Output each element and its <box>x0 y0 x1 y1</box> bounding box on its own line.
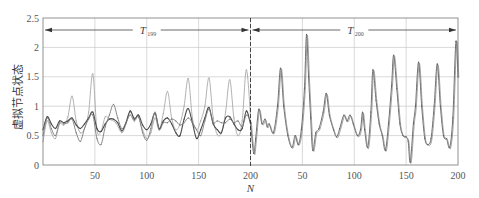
data-point <box>308 76 309 77</box>
data-point <box>167 117 168 118</box>
data-point <box>84 123 85 124</box>
data-point <box>134 119 135 120</box>
x-tick-label: 50 <box>297 170 307 181</box>
data-point <box>225 122 226 123</box>
data-point <box>117 122 118 123</box>
data-point <box>204 106 205 107</box>
y-tick-label: 2 <box>34 42 39 53</box>
data-point <box>175 120 176 121</box>
data-point <box>96 138 97 139</box>
data-point <box>179 124 180 125</box>
x-tick-label: 150 <box>191 170 206 181</box>
data-point <box>150 123 151 124</box>
data-point <box>315 132 316 133</box>
data-point <box>291 147 292 148</box>
data-point <box>188 108 189 109</box>
data-point <box>306 34 307 35</box>
y-tick-label: 1.5 <box>27 71 40 82</box>
data-point <box>269 123 270 124</box>
data-point <box>304 88 305 89</box>
data-point <box>92 73 93 74</box>
data-point <box>229 79 230 80</box>
data-point <box>146 138 147 139</box>
data-point <box>413 123 414 124</box>
data-point <box>253 153 254 154</box>
data-point <box>336 136 337 137</box>
data-point <box>280 67 281 68</box>
data-point <box>59 122 60 123</box>
data-point <box>367 147 368 148</box>
data-point <box>105 126 106 127</box>
x-tick-label: 50 <box>90 170 100 181</box>
x-tick-label: 100 <box>139 170 154 181</box>
data-point <box>237 135 238 136</box>
data-point <box>440 106 441 107</box>
data-point <box>424 138 425 139</box>
data-point <box>221 122 222 123</box>
data-point <box>415 106 416 107</box>
data-point <box>213 117 214 118</box>
data-point <box>443 135 444 136</box>
data-point <box>208 109 209 110</box>
data-point <box>51 128 52 129</box>
data-point <box>264 119 265 120</box>
data-point <box>105 116 106 117</box>
data-point <box>402 135 403 136</box>
data-point <box>92 111 93 112</box>
data-point <box>267 126 268 127</box>
data-point <box>242 126 243 127</box>
data-point <box>298 144 299 145</box>
x-tick-labels: 5010015020050100150200 <box>90 170 466 181</box>
data-point <box>318 128 319 129</box>
data-point <box>437 63 438 64</box>
data-point <box>295 135 296 136</box>
data-point <box>76 132 77 133</box>
data-point <box>142 132 143 133</box>
data-point <box>171 123 172 124</box>
data-point <box>192 122 193 123</box>
data-point <box>208 77 209 78</box>
data-point <box>121 130 122 131</box>
data-point <box>410 161 411 162</box>
data-point <box>310 117 311 118</box>
data-point <box>375 100 376 101</box>
data-point <box>51 123 52 124</box>
data-point <box>237 129 238 130</box>
data-point <box>150 128 151 129</box>
data-point <box>192 117 193 118</box>
data-point <box>113 119 114 120</box>
data-point <box>406 136 407 137</box>
data-point <box>188 117 189 118</box>
data-point <box>362 111 363 112</box>
data-point <box>225 117 226 118</box>
data-point <box>200 129 201 130</box>
data-point <box>237 120 238 121</box>
data-point <box>167 91 168 92</box>
data-point <box>163 113 164 114</box>
data-point <box>167 122 168 123</box>
data-point <box>109 114 110 115</box>
data-point <box>229 119 230 120</box>
data-point <box>350 114 351 115</box>
data-point <box>196 129 197 130</box>
line-chart: T199T200 00.511.522.5 501001502005010015… <box>0 0 479 198</box>
data-point <box>385 150 386 151</box>
data-point <box>47 116 48 117</box>
y-tick-label: 0.5 <box>27 130 40 141</box>
data-point <box>277 106 278 107</box>
data-point <box>146 140 147 141</box>
x-axis-label: N <box>246 182 255 194</box>
period-subscript: 199 <box>147 31 156 37</box>
data-point <box>171 119 172 120</box>
data-point <box>430 138 431 139</box>
data-point <box>138 116 139 117</box>
data-point <box>246 110 247 111</box>
data-point <box>63 122 64 123</box>
data-point <box>360 129 361 130</box>
data-point <box>163 120 164 121</box>
data-point <box>427 144 428 145</box>
data-point <box>233 123 234 124</box>
data-point <box>71 119 72 120</box>
data-point <box>92 114 93 115</box>
data-point <box>84 128 85 129</box>
